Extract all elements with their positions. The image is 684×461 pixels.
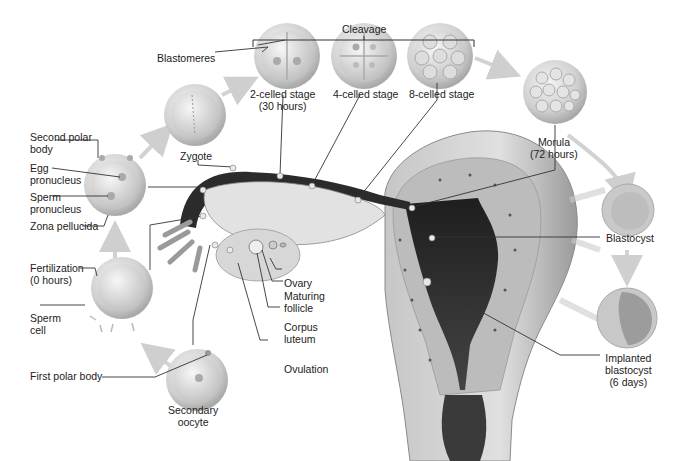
two-cell-label: 2-celled stage (30 hours) (250, 88, 315, 112)
eight-cell-label: 8-celled stage (409, 88, 474, 100)
implanted-blastocyst-label: Implanted blastocyst (6 days) (605, 352, 652, 388)
reproduction-diagram (0, 0, 684, 461)
morula-label: Morula (72 hours) (530, 136, 578, 160)
ovulation-label: Ovulation (284, 363, 328, 375)
two-cell-stage (254, 23, 320, 89)
blastocyst-label: Blastocyst (606, 232, 654, 244)
morula (523, 60, 587, 124)
first-polar-body-label: First polar body (30, 370, 102, 382)
blastocyst (602, 184, 654, 236)
uterus (385, 131, 605, 461)
second-polar-body-label: Second polar body (30, 131, 92, 155)
cleavage-label: Cleavage (342, 23, 386, 35)
zygote-label: Zygote (180, 150, 212, 162)
eight-cell-stage (407, 23, 473, 89)
fertilization-label: Fertilization (0 hours) (30, 262, 84, 286)
ovary-label: Ovary (284, 277, 312, 289)
sperm-cell-label: Sperm cell (30, 312, 61, 336)
secondary-oocyte-label: Secondary oocyte (168, 404, 218, 428)
zygote-cell (164, 84, 226, 146)
corpus-luteum-label: Corpus luteum (284, 321, 318, 345)
implanted-blastocyst (597, 288, 657, 348)
zona-pellucida-label: Zona pellucida (30, 220, 98, 232)
egg-pronucleus-label: Egg pronucleus (30, 162, 81, 186)
ovary (216, 229, 300, 281)
secondary-oocyte (166, 349, 228, 411)
maturing-follicle-label: Maturing follicle (284, 290, 325, 314)
pronuclei-cell (84, 154, 146, 216)
four-cell-label: 4-celled stage (333, 88, 398, 100)
fertilization-cell (90, 257, 153, 332)
blastomeres-label: Blastomeres (157, 52, 215, 64)
sperm-pronucleus-label: Sperm pronucleus (30, 191, 81, 215)
